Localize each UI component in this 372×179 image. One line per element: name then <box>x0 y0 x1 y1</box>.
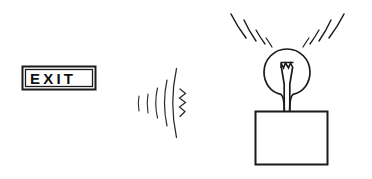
light-ray-left-4 <box>266 38 272 47</box>
base-box-rect <box>256 112 328 165</box>
light-ray-right-4 <box>303 38 309 47</box>
wave-arc-1 <box>138 96 139 111</box>
wave-arc-5 <box>173 69 177 138</box>
wave-arc-4 <box>165 80 168 126</box>
exit-sign: EXIT <box>23 67 96 90</box>
wave-arc-3 <box>156 88 158 118</box>
signal-waves <box>138 69 185 138</box>
light-ray-left-3 <box>256 30 265 44</box>
light-ray-left-1 <box>231 14 246 38</box>
base-box <box>256 112 328 165</box>
diagram-canvas: EXIT <box>0 0 372 179</box>
wave-squiggle <box>180 89 186 117</box>
light-bulb <box>264 49 310 112</box>
bulb-glass-outline <box>264 49 310 112</box>
light-ray-right-3 <box>310 30 319 44</box>
exit-sign-label: EXIT <box>30 70 76 87</box>
light-rays <box>231 14 344 47</box>
wave-arc-2 <box>147 94 148 113</box>
diagram-svg: EXIT <box>0 0 372 179</box>
light-ray-right-1 <box>329 14 344 38</box>
